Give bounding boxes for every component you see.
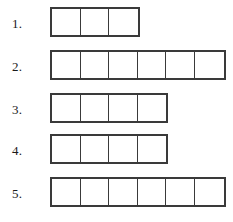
grid-cell[interactable] — [109, 95, 138, 121]
grid-cell[interactable] — [81, 95, 110, 121]
grid-cell[interactable] — [81, 179, 110, 205]
grid-cell[interactable] — [195, 179, 224, 205]
row-number-label-3: 3. — [12, 103, 42, 116]
grid-cell[interactable] — [52, 95, 81, 121]
grid-cell[interactable] — [109, 136, 138, 162]
grid-cell[interactable] — [52, 52, 81, 78]
grid-cell[interactable] — [195, 52, 224, 78]
grid-cell[interactable] — [138, 136, 167, 162]
row-number-label-2: 2. — [12, 60, 42, 73]
grid-cell[interactable] — [138, 179, 167, 205]
cell-strip-5 — [50, 177, 226, 207]
grid-cell[interactable] — [52, 179, 81, 205]
row-number-label-4: 4. — [12, 144, 42, 157]
grid-cell[interactable] — [81, 9, 110, 35]
grid-cell[interactable] — [109, 179, 138, 205]
grid-cell[interactable] — [109, 9, 138, 35]
grid-cell[interactable] — [166, 52, 195, 78]
grid-cell[interactable] — [52, 136, 81, 162]
row-number-label-1: 1. — [12, 17, 42, 30]
cell-strip-4 — [50, 134, 168, 164]
grid-cell[interactable] — [138, 52, 167, 78]
grid-cell[interactable] — [81, 136, 110, 162]
grid-cell[interactable] — [52, 9, 81, 35]
grid-cell[interactable] — [81, 52, 110, 78]
cell-strip-1 — [50, 7, 140, 37]
grid-cell[interactable] — [166, 179, 195, 205]
row-number-label-5: 5. — [12, 187, 42, 200]
grid-cell[interactable] — [109, 52, 138, 78]
cell-strip-3 — [50, 93, 168, 123]
worksheet-canvas: 1. 2. 3. 4. — [0, 0, 233, 222]
grid-cell[interactable] — [138, 95, 167, 121]
cell-strip-2 — [50, 50, 226, 80]
